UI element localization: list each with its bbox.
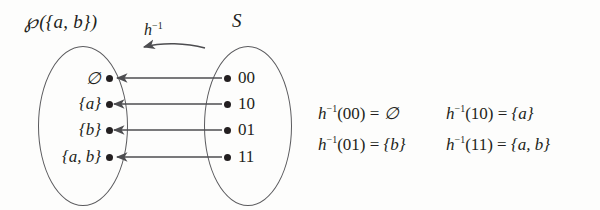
- equation-exponent: −1: [455, 103, 466, 114]
- codomain-element-row: 01: [224, 120, 255, 140]
- equation-argument: (10): [465, 104, 493, 123]
- codomain-element-dot: [224, 75, 231, 82]
- codomain-element-dot: [224, 127, 231, 134]
- codomain-element-label: 01: [238, 120, 255, 140]
- preimage-mapping-diagram: ℘({a, b}) S h−1 ∅ {a}: [0, 0, 600, 210]
- equation-operator: =: [498, 104, 508, 123]
- equation-operator: =: [370, 135, 380, 154]
- preimage-equations: h−1(00) = ∅ h−1(10) = {a} h−1(01) = {b} …: [318, 103, 550, 155]
- domain-element-dot: [106, 154, 113, 161]
- equation-value: {a, b}: [511, 135, 550, 154]
- powerset-symbol: ℘: [24, 9, 39, 33]
- mapping-function-base: h: [144, 21, 152, 38]
- domain-element-dot: [106, 127, 113, 134]
- domain-element-row: {a, b}: [62, 147, 113, 167]
- domain-element-dot: [106, 101, 113, 108]
- equation-argument: (01): [337, 135, 365, 154]
- codomain-element-dot: [224, 154, 231, 161]
- domain-element-label: {a}: [79, 94, 101, 114]
- equation-value: {b}: [384, 135, 406, 154]
- mapping-function-exponent: −1: [152, 20, 163, 31]
- equation-exponent: −1: [327, 103, 338, 114]
- equation-value: {a}: [512, 104, 534, 123]
- equation-operator: =: [370, 104, 380, 123]
- equation-exponent: −1: [327, 134, 338, 145]
- codomain-element-label: 11: [238, 147, 254, 167]
- codomain-element-label: 10: [238, 94, 255, 114]
- equation-00: h−1(00) = ∅: [318, 103, 446, 124]
- equation-function: h: [446, 135, 455, 154]
- equation-function: h: [318, 104, 327, 123]
- domain-element-label: {a, b}: [62, 147, 101, 167]
- equation-argument: (11): [465, 135, 493, 154]
- equation-11: h−1(11) = {a, b}: [446, 134, 550, 155]
- domain-element-row: ∅: [86, 68, 113, 88]
- domain-element-row: {a}: [79, 94, 113, 114]
- codomain-element-label: 00: [238, 68, 255, 88]
- codomain-element-row: 10: [224, 94, 255, 114]
- equation-argument: (00): [337, 104, 365, 123]
- equation-01: h−1(01) = {b}: [318, 134, 446, 155]
- equation-exponent: −1: [455, 134, 466, 145]
- equation-function: h: [446, 104, 455, 123]
- equation-operator: =: [497, 135, 507, 154]
- codomain-element-row: 11: [224, 147, 254, 167]
- mapping-function-label: h−1: [144, 20, 163, 39]
- domain-set-label: ℘({a, b}): [24, 9, 97, 33]
- codomain-element-dot: [224, 101, 231, 108]
- domain-element-row: {b}: [79, 120, 113, 140]
- domain-element-dot: [106, 75, 113, 82]
- equation-value: ∅: [384, 104, 399, 123]
- equation-function: h: [318, 135, 327, 154]
- codomain-element-row: 00: [224, 68, 255, 88]
- equation-10: h−1(10) = {a}: [446, 103, 550, 124]
- codomain-set-label: S: [232, 10, 242, 32]
- powerset-argument: ({a, b}): [39, 11, 97, 32]
- domain-element-label: ∅: [86, 68, 101, 89]
- mapping-direction-arrow: [144, 44, 205, 48]
- domain-element-label: {b}: [79, 120, 101, 140]
